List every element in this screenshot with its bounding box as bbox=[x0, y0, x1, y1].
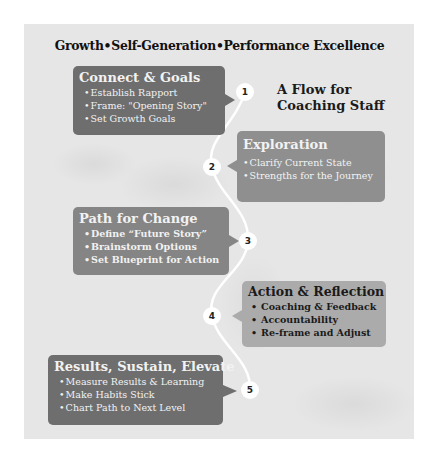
step-1-heading: Connect & Goals bbox=[79, 70, 219, 86]
step-5-node: 5 bbox=[241, 381, 259, 399]
step-1-item: Establish Rapport bbox=[84, 86, 219, 99]
step-2-pointer bbox=[227, 160, 237, 172]
step-5-item: Measure Results & Learning bbox=[59, 375, 217, 388]
step-3-node: 3 bbox=[239, 232, 257, 250]
step-5-item: Make Habits Stick bbox=[59, 388, 217, 401]
step-1-box: Connect & Goals Establish Rapport Frame:… bbox=[73, 66, 225, 135]
step-2-item: Strengths for the Journey bbox=[243, 169, 379, 182]
step-1-item: Set Growth Goals bbox=[84, 112, 219, 125]
step-4-pointer bbox=[232, 310, 242, 322]
step-4-item: Re-frame and Adjust bbox=[251, 326, 380, 339]
step-4-item: Accountability bbox=[251, 313, 380, 326]
step-3-item: Brainstorm Options bbox=[84, 240, 223, 253]
step-4-heading: Action & Reflection bbox=[248, 284, 380, 300]
step-3-item: Set Blueprint for Action bbox=[84, 253, 223, 266]
step-3-heading: Path for Change bbox=[79, 211, 223, 227]
step-2-box: Exploration Clarify Current State Streng… bbox=[237, 131, 385, 202]
step-1-pointer bbox=[225, 94, 235, 106]
step-2-item: Clarify Current State bbox=[243, 156, 379, 169]
step-3-item: Define “Future Story” bbox=[84, 227, 223, 240]
step-1-node: 1 bbox=[236, 83, 254, 101]
step-5-box: Results, Sustain, Elevate Measure Result… bbox=[48, 355, 223, 425]
step-2-heading: Exploration bbox=[243, 137, 379, 153]
step-4-item: Coaching & Feedback bbox=[251, 300, 380, 313]
step-5-item: Chart Path to Next Level bbox=[59, 401, 217, 414]
step-5-pointer bbox=[223, 385, 237, 397]
step-3-pointer bbox=[229, 235, 239, 247]
step-5-heading: Results, Sustain, Elevate bbox=[54, 359, 217, 375]
step-1-item: Frame: "Opening Story" bbox=[84, 99, 219, 112]
step-4-node: 4 bbox=[203, 307, 221, 325]
step-2-node: 2 bbox=[203, 158, 221, 176]
step-4-box: Action & Reflection Coaching & Feedback … bbox=[242, 281, 386, 347]
step-3-box: Path for Change Define “Future Story” Br… bbox=[73, 207, 229, 275]
